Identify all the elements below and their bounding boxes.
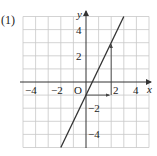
x-tick-label: 4 [133, 84, 139, 96]
x-axis-label: x [146, 83, 152, 95]
y-tick-label: −2 [88, 102, 100, 114]
problem-label: (1) [1, 13, 15, 27]
origin-label: O [74, 84, 82, 96]
x-tick-label: −4 [25, 84, 37, 96]
y-tick-label: 4 [76, 24, 82, 36]
x-tick-label: 2 [113, 84, 119, 96]
y-tick-label: 2 [76, 50, 82, 62]
x-tick-label: −2 [51, 84, 63, 96]
y-tick-label: −4 [88, 128, 100, 140]
coordinate-graph: (1) x y O −4 −2 2 4 4 2 −2 −4 [0, 0, 157, 156]
y-axis-label: y [76, 8, 82, 20]
